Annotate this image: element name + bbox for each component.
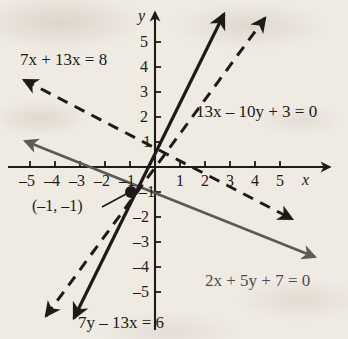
x-tick-label-5: 5 [276,173,284,189]
figure-canvas: –5 –4 –3 –2 –1 1 2 3 4 5 5 4 3 2 1 –1 –2… [0,0,348,339]
y-tick-label-1: 1 [143,134,151,150]
y-tick-label-4: 4 [140,59,148,75]
x-tick-label-2: 2 [201,173,209,189]
y-tick-label--1: –1 [139,184,155,200]
intersection-point-label: (–1, –1) [32,198,83,214]
y-tick-label--4: –4 [133,259,149,275]
y-tick-label--3: –3 [133,234,149,250]
equation-label-2x-5y-7: 2x + 5y + 7 = 0 [205,272,310,289]
y-tick-label-2: 2 [140,109,148,125]
equation-label-7x-13x-8: 7x + 13x = 8 [20,51,107,68]
y-tick-label--5: –5 [133,284,149,300]
y-tick-label-3: 3 [140,84,148,100]
intersection-leader-line [102,193,128,207]
y-tick-label-5: 5 [140,34,148,50]
x-tick-label--3: –3 [69,173,85,189]
x-tick-label-3: 3 [226,173,234,189]
x-tick-label-4: 4 [251,173,259,189]
x-axis [8,161,330,167]
x-tick-label--1: –1 [119,173,135,189]
y-axis [155,12,161,330]
x-axis-label: x [302,172,309,188]
x-tick-label-1: 1 [176,173,184,189]
equation-label-13x-10y-3: 13x – 10y + 3 = 0 [196,103,317,120]
x-tick-label--5: –5 [19,173,35,189]
x-tick-label--2: –2 [94,173,110,189]
y-tick-label--2: –2 [133,209,149,225]
y-axis-label: y [138,8,145,24]
equation-label-7y-13x-6: 7y – 13x = 6 [78,314,164,331]
x-tick-label--4: –4 [44,173,60,189]
